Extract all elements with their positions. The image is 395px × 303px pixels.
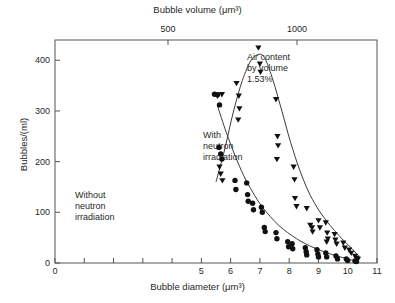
data-point-circle	[345, 258, 350, 263]
data-point-circle	[324, 254, 329, 259]
data-point-triangle	[291, 165, 297, 170]
data-point-triangle	[291, 177, 297, 182]
data-point-circle	[250, 201, 255, 206]
data-point-circle	[233, 187, 238, 192]
data-point-circle	[273, 230, 278, 235]
data-point-triangle	[233, 81, 239, 86]
data-point-triangle	[274, 134, 280, 139]
data-point-triangle	[340, 241, 346, 246]
data-point-circle	[354, 259, 359, 264]
data-point-triangle	[216, 165, 222, 170]
data-point-triangle	[255, 45, 261, 50]
data-point-circle	[304, 252, 309, 257]
data-point-circle	[232, 178, 237, 183]
data-point-circle	[219, 156, 224, 161]
data-point-circle	[218, 151, 223, 156]
data-point-circle	[316, 254, 321, 259]
data-point-triangle	[304, 206, 310, 211]
data-point-triangle	[315, 218, 321, 223]
data-point-triangle	[310, 229, 316, 234]
data-point-circle	[335, 256, 340, 261]
data-point-triangle	[317, 225, 323, 230]
data-point-triangle	[257, 70, 263, 75]
data-point-triangle	[334, 242, 340, 247]
axis-ticks	[55, 40, 377, 263]
data-point-triangle	[292, 196, 298, 201]
data-point-circle	[251, 207, 256, 212]
data-point-circle	[260, 210, 265, 215]
data-point-triangle	[273, 97, 279, 102]
data-point-circle	[263, 229, 268, 234]
plot-frame	[55, 40, 377, 263]
data-point-triangle	[332, 232, 338, 237]
data-point-circle	[274, 236, 279, 241]
data-point-triangle	[257, 62, 263, 67]
data-point-circle	[289, 241, 294, 246]
data-point-triangle	[235, 117, 241, 122]
data-point-triangle	[275, 143, 281, 148]
data-point-circle	[216, 145, 221, 150]
data-point-triangle	[274, 157, 280, 162]
data-point-circle	[217, 102, 222, 107]
bubble-size-distribution-chart: Bubble volume (μm³) Bubble diameter (μm³…	[0, 0, 395, 303]
data-point-circle	[245, 192, 250, 197]
plot-canvas	[0, 0, 395, 303]
data-point-triangle	[219, 178, 225, 183]
data-point-circle	[215, 92, 220, 97]
data-point-circle	[259, 205, 264, 210]
data-point-circle	[244, 180, 249, 185]
data-point-triangle	[324, 240, 330, 245]
data-point-circle	[290, 246, 295, 251]
data-point-triangle	[236, 106, 242, 111]
fitted-curves	[216, 54, 359, 261]
data-point-triangle	[324, 230, 330, 235]
curve-with-irradiation	[216, 54, 359, 257]
data-point-triangle	[293, 204, 299, 209]
